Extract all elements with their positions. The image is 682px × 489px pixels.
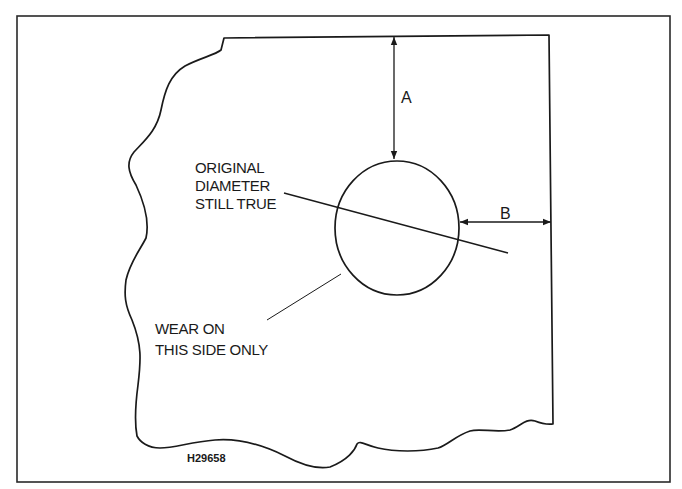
- worn-hole: [335, 161, 459, 295]
- callout-line: ORIGINAL: [195, 159, 264, 176]
- callout-line: STILL TRUE: [195, 195, 276, 212]
- wear-side-leader: [267, 274, 341, 320]
- figure-id: H29658: [187, 450, 226, 467]
- dimension-a-label: A: [401, 89, 411, 106]
- callout-line: DIAMETER: [195, 177, 270, 194]
- original-diameter-leader: [284, 193, 508, 253]
- dimension-b-label: B: [500, 205, 510, 222]
- figure-frame: [17, 16, 670, 482]
- diagram-canvas: [0, 0, 682, 489]
- callout-line: WEAR ON: [155, 320, 225, 337]
- callout-line: THIS SIDE ONLY: [155, 341, 268, 358]
